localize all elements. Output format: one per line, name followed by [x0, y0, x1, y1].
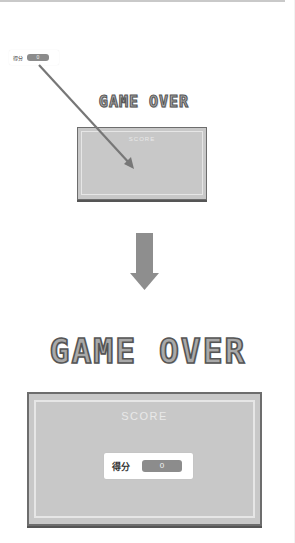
- down-arrow-icon: [130, 233, 159, 290]
- pointer-arrow-icon: [39, 65, 134, 169]
- score-heading: SCORE: [29, 410, 260, 422]
- score-widget-after: 得分 0: [104, 453, 193, 479]
- score-label: 得分: [112, 460, 142, 473]
- score-value: 0: [142, 460, 182, 472]
- game-over-title-after: GAME OVER: [48, 333, 248, 371]
